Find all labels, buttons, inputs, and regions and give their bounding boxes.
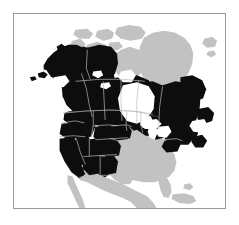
map-canvas bbox=[14, 14, 225, 208]
figure-root: Present Absent North America bbox=[0, 0, 239, 225]
map-frame: Present Absent bbox=[13, 13, 226, 209]
